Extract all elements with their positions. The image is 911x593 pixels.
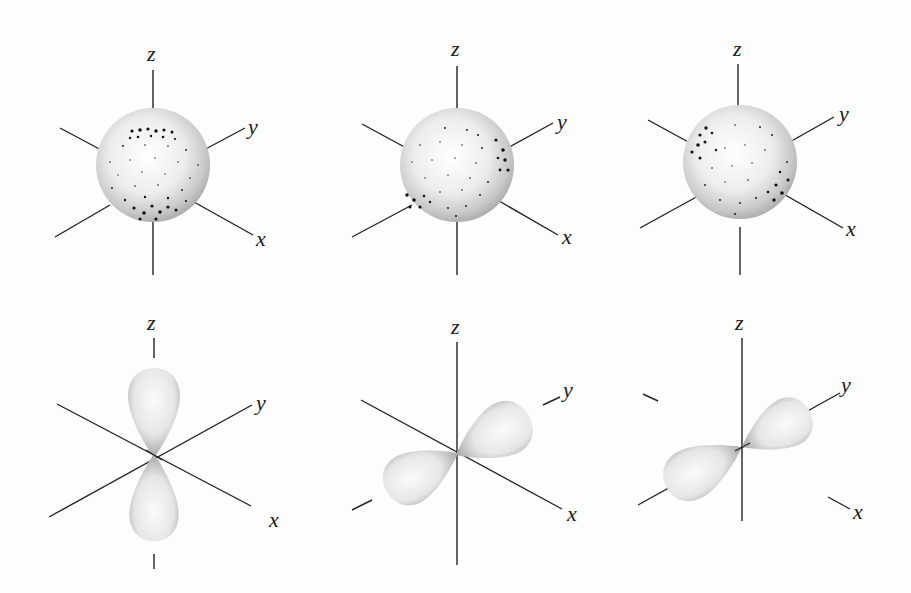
s-orbital-sphere-1: z y x <box>55 41 266 275</box>
y-axis-label: y <box>555 109 567 134</box>
z-axis-label: z <box>450 36 460 61</box>
x-axis-label: x <box>561 224 572 249</box>
orbital-diagram: z y x z y x <box>0 0 911 593</box>
z-axis-label: z <box>734 310 744 335</box>
p-orbital-x: z y x <box>638 310 863 524</box>
x-axis-label: x <box>845 216 856 241</box>
x-axis-label: x <box>268 507 279 532</box>
z-axis-label: z <box>146 310 156 335</box>
y-axis-label: y <box>246 114 258 139</box>
x-axis-label: x <box>255 226 266 251</box>
z-axis-label: z <box>450 314 460 339</box>
y-axis-label: y <box>839 372 851 397</box>
p-orbital-z: z y x <box>49 310 279 569</box>
s-orbital-sphere-2: z y x <box>352 36 572 275</box>
p-orbital-y: z y x <box>352 314 577 565</box>
y-axis-label: y <box>837 101 849 126</box>
x-axis-label: x <box>852 499 863 524</box>
z-axis-label: z <box>732 36 742 61</box>
y-axis-label: y <box>254 390 266 415</box>
x-axis-label: x <box>566 501 577 526</box>
z-axis-label: z <box>146 41 156 66</box>
s-orbital-sphere-3: z y x <box>640 36 856 275</box>
y-axis-label: y <box>561 377 573 402</box>
